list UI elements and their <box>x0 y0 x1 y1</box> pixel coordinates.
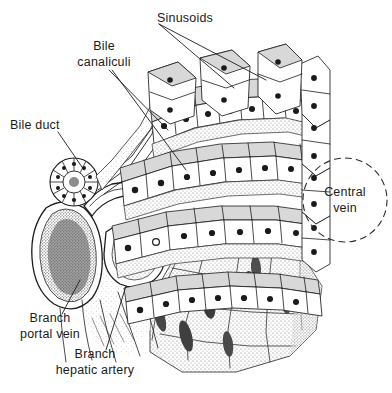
hepatocyte-nucleus-open <box>153 239 160 246</box>
label-bile-canaliculi-line2: canaliculi <box>77 55 130 69</box>
label-central-vein-line1: Central <box>324 185 366 199</box>
label-bile-duct: Bile duct <box>10 118 60 132</box>
label-branch-hepatic-artery-line1: Branch <box>75 347 116 361</box>
label-sinusoids: Sinusoids <box>157 11 213 25</box>
label-bile-canaliculi-line1: Bile <box>93 39 115 53</box>
label-branch-portal-vein-line2: portal vein <box>20 327 80 341</box>
hepatic-cell-plate-vertical <box>300 56 330 272</box>
bile-duct-rosette <box>50 158 98 206</box>
label-central-vein-line2: vein <box>333 201 357 215</box>
label-branch-portal-vein-line1: Branch <box>30 311 71 325</box>
label-branch-hepatic-artery-line2: hepatic artery <box>56 363 135 377</box>
liver-lobule-figure: Sinusoids Bile canaliculi Bile duct Cent… <box>0 0 392 393</box>
